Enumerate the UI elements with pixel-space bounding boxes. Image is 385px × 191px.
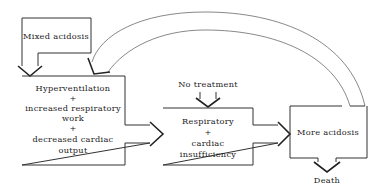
compensation-line-3: increased respiratory: [25, 103, 121, 113]
more-acidosis-node: More acidosis: [290, 106, 367, 172]
compensation-line-5: +: [69, 123, 76, 133]
more-acidosis-label: More acidosis: [297, 127, 359, 137]
feedback-arrowhead: [88, 58, 110, 74]
compensation-line-1: Hyperventilation: [36, 83, 111, 93]
insufficiency-node: Respiratory + cardiac insufficiency: [163, 108, 290, 165]
no-treatment-label: No treatment: [178, 79, 238, 89]
death-label: Death: [314, 175, 341, 185]
compensation-arrowhead: [150, 122, 163, 146]
insufficiency-arrowhead: [278, 122, 290, 146]
no-treatment-node: No treatment: [178, 79, 238, 107]
no-treatment-arrowhead: [196, 98, 220, 107]
insufficiency-line-4: insufficiency: [180, 149, 237, 159]
compensation-node: Hyperventilation + increased respiratory…: [22, 76, 163, 165]
compensation-line-6: decreased cardiac: [32, 134, 113, 144]
more-acidosis-arrowhead: [314, 162, 340, 172]
feedback-arrow: [88, 12, 365, 106]
compensation-line-2: +: [69, 93, 76, 103]
insufficiency-line-3: cardiac: [192, 138, 225, 148]
insufficiency-line-2: +: [204, 127, 211, 137]
insufficiency-line-1: Respiratory: [182, 116, 234, 126]
compensation-line-7: output: [58, 145, 88, 155]
compensation-line-4: work: [62, 113, 85, 123]
flow-diagram: Mixed acidosis Hyperventilation + increa…: [0, 0, 385, 191]
mixed-acidosis-node: Mixed acidosis: [18, 18, 91, 76]
mixed-acidosis-arrowhead: [18, 66, 42, 76]
mixed-acidosis-label: Mixed acidosis: [23, 31, 89, 41]
